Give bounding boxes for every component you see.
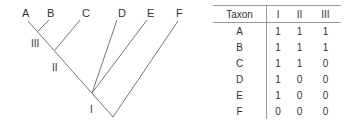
character-cell: 1: [267, 39, 290, 55]
header-taxon: Taxon: [213, 6, 267, 23]
branch-f: [113, 21, 178, 117]
character-cell: 0: [267, 103, 290, 119]
taxon-cell: E: [213, 87, 267, 103]
character-cell: 0: [310, 103, 341, 119]
header-iii: III: [310, 6, 341, 23]
character-table: Taxon I II III A111B111C110D100E100F000: [213, 5, 341, 119]
character-cell: 1: [267, 23, 290, 40]
character-cell: 0: [289, 103, 310, 119]
taxon-cell: D: [213, 71, 267, 87]
branch-e: [92, 20, 147, 93]
character-cell: 1: [310, 39, 341, 55]
character-cell: 1: [267, 71, 290, 87]
taxon-label-c: C: [82, 8, 90, 19]
character-cell: 1: [289, 23, 310, 40]
character-cell: 1: [267, 55, 290, 71]
character-cell: 1: [289, 55, 310, 71]
table-row: C110: [213, 55, 341, 71]
phylogenetic-tree: [0, 0, 200, 127]
table-row: F000: [213, 103, 341, 119]
table-header-row: Taxon I II III: [213, 6, 341, 23]
taxon-label-f: F: [176, 8, 183, 19]
table-row: D100: [213, 71, 341, 87]
node-label-ii: II: [52, 63, 58, 73]
header-ii: II: [289, 6, 310, 23]
node-label-i: I: [90, 105, 93, 115]
branch-b: [38, 20, 49, 31]
character-cell: 0: [310, 87, 341, 103]
character-cell: 1: [267, 87, 290, 103]
branch-c: [55, 20, 80, 50]
header-i: I: [267, 6, 290, 23]
taxon-label-e: E: [147, 8, 154, 19]
taxon-label-d: D: [118, 8, 126, 19]
node-label-iii: III: [31, 39, 39, 49]
character-cell: 0: [310, 55, 341, 71]
character-cell: 1: [310, 23, 341, 40]
character-cell: 0: [289, 87, 310, 103]
character-cell: 0: [310, 71, 341, 87]
taxon-cell: A: [213, 23, 267, 40]
character-cell: 0: [289, 71, 310, 87]
table-row: B111: [213, 39, 341, 55]
taxon-cell: F: [213, 103, 267, 119]
taxon-label-b: B: [47, 8, 54, 19]
table-row: E100: [213, 87, 341, 103]
taxon-cell: C: [213, 55, 267, 71]
taxon-cell: B: [213, 39, 267, 55]
taxon-label-a: A: [22, 8, 29, 19]
branch-d: [92, 20, 117, 93]
table-row: A111: [213, 23, 341, 40]
character-cell: 1: [289, 39, 310, 55]
